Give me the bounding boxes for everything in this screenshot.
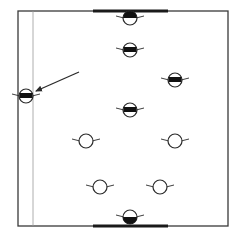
player-marker-p6 [72,134,100,148]
marker-fill [123,217,137,224]
marker-fill [169,77,182,82]
player-marker-p7 [161,134,189,148]
marker-fill [124,107,137,112]
highlight-arrow [36,72,79,91]
player-marker-p10 [116,210,144,224]
players [12,11,189,224]
marker-fill [124,47,137,52]
field-boundary [18,11,228,226]
player-marker-p8 [86,180,114,194]
player-marker-p1 [116,11,144,25]
formation-diagram [0,0,238,241]
marker-fill [20,93,33,98]
player-marker-p2 [116,43,144,57]
player-marker-p9 [146,180,174,194]
player-marker-p5 [116,103,144,117]
player-marker-p4 [12,89,40,103]
player-marker-p3 [161,73,189,87]
